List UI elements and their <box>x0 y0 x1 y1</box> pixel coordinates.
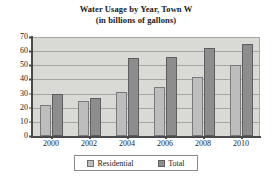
chart-legend: ResidentialTotal <box>74 155 198 171</box>
x-axis-tick-label: 2006 <box>157 139 173 148</box>
bar-group-2004 <box>116 37 139 136</box>
y-axis-tick-label: 10 <box>20 118 28 126</box>
x-axis-labels: 200020022004200620082010 <box>32 139 260 151</box>
bar-group-2006 <box>154 37 177 136</box>
chart-subtitle: (in billions of gallons) <box>0 15 272 26</box>
y-axis-tick-label: 50 <box>20 61 28 69</box>
x-axis-tick-mark <box>51 136 53 139</box>
bar-residential-2010 <box>230 65 241 136</box>
x-axis-tick-mark <box>241 136 243 139</box>
bar-group-2000 <box>40 37 63 136</box>
x-axis-tick-label: 2000 <box>43 139 59 148</box>
x-axis-tick-mark <box>127 136 129 139</box>
y-axis-tick-label: 0 <box>24 132 28 140</box>
bar-total-2000 <box>52 94 63 136</box>
y-axis-tick-label: 40 <box>20 75 28 83</box>
legend-label: Total <box>168 159 184 168</box>
x-axis-line <box>31 136 261 138</box>
x-axis-tick-label: 2004 <box>119 139 135 148</box>
bar-residential-2000 <box>40 105 51 136</box>
bar-total-2006 <box>166 57 177 136</box>
bar-residential-2006 <box>154 87 165 137</box>
x-axis-tick-mark <box>89 136 91 139</box>
y-axis-tick-label: 20 <box>20 104 28 112</box>
page-title: Water Usage by Year, Town W <box>0 4 272 15</box>
legend-item-total[interactable]: Total <box>158 159 184 168</box>
x-axis-tick-mark <box>165 136 167 139</box>
bar-total-2008 <box>204 48 215 136</box>
bars-layer <box>32 37 260 136</box>
y-axis-tick-label: 60 <box>20 47 28 55</box>
x-axis-tick-label: 2010 <box>233 139 249 148</box>
bar-total-2002 <box>90 98 101 136</box>
legend-swatch-icon <box>87 160 94 167</box>
y-axis-line <box>31 36 33 137</box>
bar-residential-2004 <box>116 92 127 136</box>
bar-total-2010 <box>242 44 253 136</box>
legend-swatch-icon <box>158 160 165 167</box>
chart-title-block: Water Usage by Year, Town W (in billions… <box>0 4 272 26</box>
y-axis-tick-label: 30 <box>20 90 28 98</box>
water-usage-bar-chart: Water Usage by Year, Town W (in billions… <box>0 0 272 177</box>
x-axis-tick-label: 2008 <box>195 139 211 148</box>
bar-residential-2008 <box>192 77 203 136</box>
bar-total-2004 <box>128 58 139 136</box>
plot-wrap: 010203040506070 <box>32 37 260 136</box>
x-axis-tick-mark <box>203 136 205 139</box>
bar-group-2008 <box>192 37 215 136</box>
bar-group-2002 <box>78 37 101 136</box>
bar-residential-2002 <box>78 101 89 136</box>
bar-group-2010 <box>230 37 253 136</box>
x-axis-tick-label: 2002 <box>81 139 97 148</box>
legend-item-residential[interactable]: Residential <box>87 159 133 168</box>
y-axis-tick-label: 70 <box>20 33 28 41</box>
legend-label: Residential <box>97 159 133 168</box>
